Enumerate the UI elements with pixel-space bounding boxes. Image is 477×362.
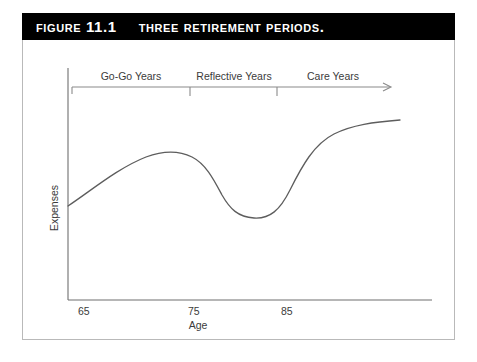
- x-tick-label-75: 75: [188, 305, 200, 317]
- y-axis-title: Expenses: [48, 185, 60, 231]
- figure-title-bar: Figure 11.1 Three retirement periods.: [22, 13, 455, 40]
- retirement-periods-bracket: [72, 83, 391, 96]
- period-label-go-go-years: Go-Go Years: [101, 70, 162, 82]
- period-label-reflective-years: Reflective Years: [196, 70, 271, 82]
- expenses-line-chart: Go-Go Years Reflective Years Care Years …: [22, 40, 455, 340]
- x-axis-title: Age: [189, 319, 208, 331]
- expenses-curve: [68, 120, 400, 218]
- x-tick-label-65: 65: [78, 305, 90, 317]
- period-label-care-years: Care Years: [307, 70, 359, 82]
- x-tick-label-85: 85: [281, 305, 293, 317]
- figure-caption-label: Three retirement periods.: [139, 18, 325, 35]
- figure-number-label: Figure 11.1: [36, 18, 117, 35]
- chart-plot-area: Go-Go Years Reflective Years Care Years …: [22, 40, 455, 340]
